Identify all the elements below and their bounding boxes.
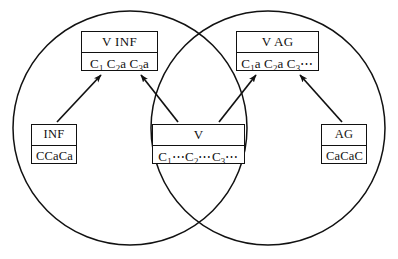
ellipsis-3: ⋯ xyxy=(225,149,239,164)
venn-diagram-figure: V INF C1 C2a C3a V AG C1a C2a C3⋯ INF CC… xyxy=(0,0,398,259)
c2-symbol: C2 xyxy=(185,149,198,164)
arrow-ag-to-v-ag xyxy=(300,75,342,122)
c3-symbol: C3 xyxy=(212,149,225,164)
ellipsis-trailing: ⋯ xyxy=(300,56,314,71)
c1-symbol: C1 xyxy=(90,56,103,71)
node-v-content: C1⋯C2⋯C3⋯ xyxy=(153,146,244,167)
node-v-ag-content: C1a C2a C3⋯ xyxy=(237,53,318,74)
node-v-ag: V AG C1a C2a C3⋯ xyxy=(236,31,319,71)
arrow-inf-to-v-inf xyxy=(57,75,101,122)
node-ag-title: AG xyxy=(322,125,366,145)
node-inf: INF CCaCa xyxy=(31,124,77,164)
node-v-inf: V INF C1 C2a C3a xyxy=(81,31,158,71)
node-inf-content: CCaCa xyxy=(32,146,76,167)
node-ag: AG CaCaC xyxy=(321,124,367,164)
a-symbol-1: a xyxy=(255,56,261,71)
c2-symbol: C2 xyxy=(107,56,120,71)
node-v: V C1⋯C2⋯C3⋯ xyxy=(152,124,245,164)
node-v-inf-title: V INF xyxy=(82,32,157,52)
node-v-inf-content: C1 C2a C3a xyxy=(82,53,157,74)
node-ag-content: CaCaC xyxy=(322,146,366,167)
a-symbol-1: a xyxy=(120,56,126,71)
ellipsis-1: ⋯ xyxy=(172,149,186,164)
a-symbol-2: a xyxy=(143,56,149,71)
node-v-title: V xyxy=(153,125,244,145)
c2-symbol: C2 xyxy=(264,56,277,71)
c1-symbol: C1 xyxy=(241,56,254,71)
c1-symbol: C1 xyxy=(158,149,171,164)
a-symbol-2: a xyxy=(277,56,283,71)
ellipsis-2: ⋯ xyxy=(198,149,212,164)
c3-symbol: C3 xyxy=(130,56,143,71)
node-inf-title: INF xyxy=(32,125,76,145)
arrow-v-to-v-inf xyxy=(141,75,178,122)
c3-symbol: C3 xyxy=(287,56,300,71)
node-v-ag-title: V AG xyxy=(237,32,318,52)
